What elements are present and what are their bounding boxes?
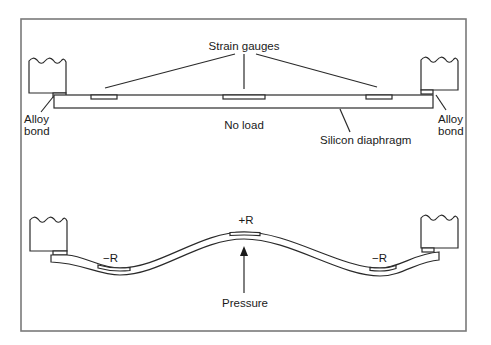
strain-gauge-right-loaded <box>370 266 396 272</box>
strain-gauge-left <box>91 95 117 99</box>
pressure-label: Pressure <box>222 297 268 309</box>
strain-gauge-center <box>223 95 265 99</box>
pressure-arrow-icon <box>240 246 248 256</box>
left-alloy-label-line1: Alloy <box>24 113 49 125</box>
leader-line-right-gauge <box>256 54 377 87</box>
center-positive-r-label: +R <box>238 214 253 226</box>
strain-gauges-label: Strain gauges <box>209 40 280 52</box>
leader-line-left-bond <box>41 97 53 112</box>
left-mount-block <box>29 58 66 93</box>
right-alloy-bond-loaded <box>422 248 434 252</box>
left-negative-r-label: −R <box>103 252 118 264</box>
leader-line-diaphragm <box>340 109 350 132</box>
left-alloy-label-line2: bond <box>24 125 50 137</box>
right-mount-block-loaded <box>421 215 458 248</box>
right-negative-r-label: −R <box>372 252 387 264</box>
leader-line-right-bond <box>436 95 446 110</box>
strain-gauge-right <box>366 95 392 99</box>
no-load-label: No load <box>224 119 264 131</box>
right-alloy-label-line2: bond <box>438 125 464 137</box>
right-alloy-bond <box>421 90 433 94</box>
strain-gauge-diagram: Strain gauges No load Silicon diaphragm … <box>0 0 491 345</box>
leader-line-left-gauge <box>105 54 235 88</box>
right-alloy-label-line1: Alloy <box>438 113 463 125</box>
bottom-panel: −R +R −R Pressure <box>30 214 458 309</box>
top-panel: Strain gauges No load Silicon diaphragm … <box>24 40 464 146</box>
right-mount-block <box>421 57 458 90</box>
strain-gauge-center-loaded <box>230 232 260 236</box>
silicon-diaphragm-label: Silicon diaphragm <box>320 134 411 146</box>
left-mount-block-loaded <box>30 217 67 251</box>
